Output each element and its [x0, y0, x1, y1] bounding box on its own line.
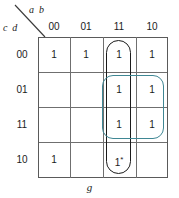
- kmap-cell-r3c1[interactable]: [70, 142, 102, 177]
- kmap-cell-r2c0[interactable]: [38, 107, 70, 142]
- kmap-cell-r3c2[interactable]: 1*: [103, 142, 135, 177]
- kmap-cell-r0c3[interactable]: 1: [136, 37, 168, 72]
- kmap-cell-r1c2[interactable]: 1: [103, 72, 135, 107]
- kmap-cell-marker: *: [120, 155, 123, 164]
- row-header-3: 10: [8, 142, 36, 177]
- column-headers: 00 01 11 10: [38, 18, 168, 35]
- kmap-cell-r1c1[interactable]: [70, 72, 102, 107]
- kmap-cell-r0c2[interactable]: 1: [103, 37, 135, 72]
- kmap-cell-r0c1[interactable]: 1: [70, 37, 102, 72]
- karnaugh-map: a b c d 00 01 11 10 00 01 11 10 1 1 1 1: [0, 0, 179, 198]
- row-header-0: 00: [8, 37, 36, 72]
- kmap-cell-r2c2[interactable]: 1: [103, 107, 135, 142]
- column-variables-label: a b: [29, 4, 45, 15]
- kmap-cell-r2c1[interactable]: [70, 107, 102, 142]
- column-header-3: 10: [136, 18, 168, 35]
- column-header-2: 11: [103, 18, 135, 35]
- kmap-cell-r3c0[interactable]: 1: [38, 142, 70, 177]
- kmap-cell-r3c3[interactable]: [136, 142, 168, 177]
- kmap-cell-r1c3[interactable]: 1: [136, 72, 168, 107]
- kmap-cell-r0c0[interactable]: 1: [38, 37, 70, 72]
- row-headers: 00 01 11 10: [8, 37, 36, 178]
- row-header-2: 11: [8, 107, 36, 142]
- column-header-1: 01: [70, 18, 102, 35]
- kmap-cell-r1c0[interactable]: [38, 72, 70, 107]
- function-label: g: [0, 181, 179, 193]
- kmap-cell-r2c3[interactable]: 1: [136, 107, 168, 142]
- row-variables-label: c d: [3, 22, 19, 33]
- kmap-grid: 1 1 1 1 1 1 1 1 1 1*: [38, 37, 168, 178]
- column-header-0: 00: [38, 18, 70, 35]
- row-header-1: 01: [8, 72, 36, 107]
